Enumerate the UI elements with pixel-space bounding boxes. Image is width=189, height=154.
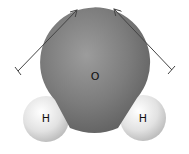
water-molecule-diagram: O H H <box>0 0 189 154</box>
hydrogen-label-left: H <box>42 112 50 125</box>
hydrogen-label-right: H <box>139 112 147 125</box>
oxygen-label: O <box>91 70 100 83</box>
